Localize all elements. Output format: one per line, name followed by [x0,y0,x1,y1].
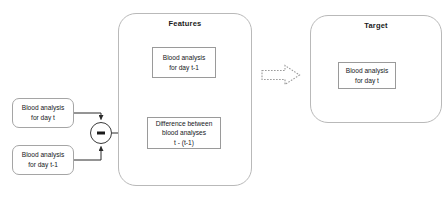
node-source-blood-analysis-day-t: Blood analysis for day t [12,98,74,128]
node-line-2: for day t-1 [28,160,58,170]
node-line-1: Blood analysis [163,53,206,63]
node-line-1: Blood analysis [22,103,65,113]
node-target-blood-analysis-day-t: Blood analysis for day t [338,62,396,89]
node-line-2: for day t [31,113,55,123]
wire-source-t-to-operator [74,113,101,120]
wire-source-tm1-to-operator [74,147,101,161]
node-line-3: t - (t-1) [174,138,194,148]
subtraction-operator-icon [90,122,112,144]
node-line-1: Difference between [156,119,213,129]
node-line-1: Blood analysis [346,66,389,76]
features-panel: Features [118,13,252,186]
node-line-1: Blood analysis [22,150,65,160]
node-line-2: blood analyses [162,128,206,138]
node-source-blood-analysis-day-t-minus-1: Blood analysis for day t-1 [12,145,74,175]
features-panel-title: Features [119,19,251,28]
node-line-2: for day t [355,76,379,86]
node-feature-difference: Difference between blood analyses t - (t… [147,117,221,149]
node-feature-blood-analysis-day-t-minus-1: Blood analysis for day t-1 [152,47,216,78]
minus-icon [97,132,105,135]
node-line-2: for day t-1 [169,63,199,73]
features-to-target-arrow-icon [261,64,301,86]
target-panel-title: Target [311,21,441,30]
diagram-canvas: Features Target Blood analysis for day t… [0,0,448,198]
